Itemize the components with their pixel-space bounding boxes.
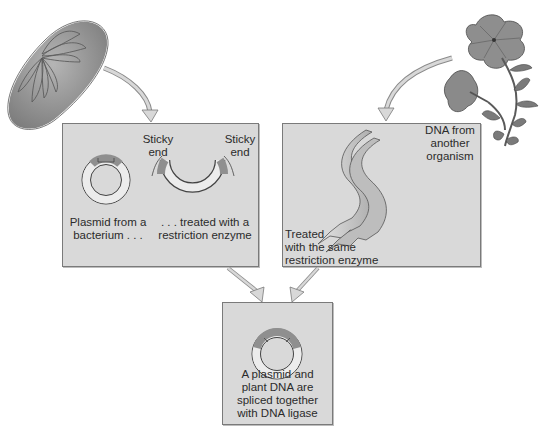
- arrow-left-to-result: [228, 268, 264, 302]
- arrow-bacterium-to-plasmid: [104, 68, 158, 122]
- cut-plasmid-icon: [152, 156, 234, 188]
- plasmid-caption: Plasmid from a bacterium . . .: [66, 216, 150, 242]
- restriction-caption: . . . treated with a restriction enzyme: [155, 216, 255, 242]
- arrow-flower-to-dna: [378, 58, 452, 121]
- sticky-end-label-left: Sticky end: [138, 133, 178, 159]
- sticky-end-label-right: Sticky end: [220, 133, 260, 159]
- bacterium-icon: [8, 21, 108, 130]
- diagram: Sticky end Sticky end Plasmid from a bac…: [0, 0, 544, 434]
- intact-plasmid-icon: [82, 156, 130, 204]
- arrow-right-to-result: [290, 268, 318, 302]
- dna-source-caption: DNA from another organism: [420, 124, 480, 163]
- splice-result-caption: A plasmid and plant DNA are spliced toge…: [222, 368, 333, 420]
- treated-caption: Treated with the same restriction enzyme: [285, 228, 395, 267]
